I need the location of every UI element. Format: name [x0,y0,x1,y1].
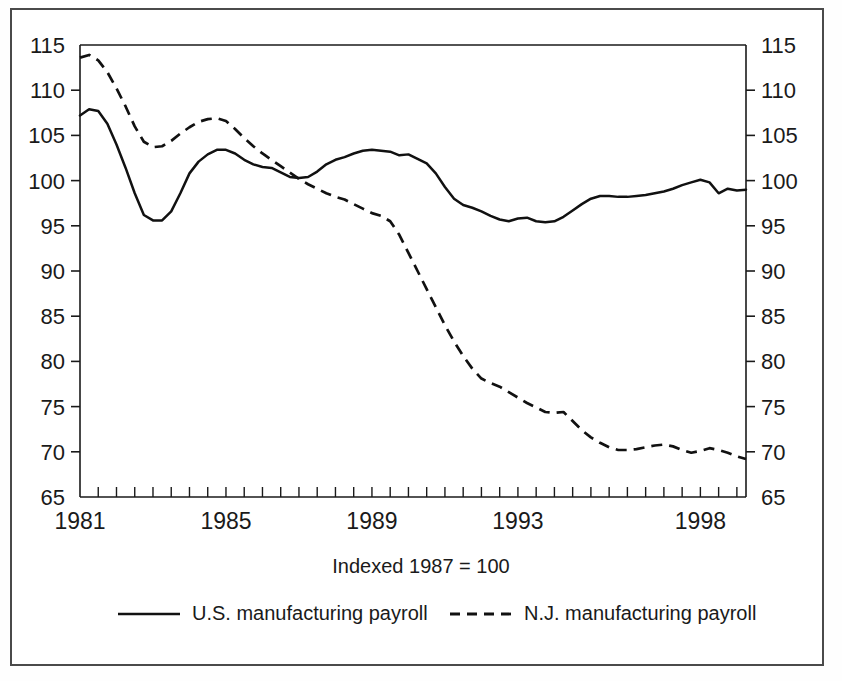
chart-caption: Indexed 1987 = 100 [332,555,509,577]
x-axis-label: 1989 [346,508,397,534]
y-axis-label-left: 115 [30,33,65,58]
figure-container: 1151151101101051051001009595909085858080… [0,0,842,681]
y-axis-label-right: 90 [761,259,785,284]
y-axis-label-left: 70 [41,440,65,465]
legend-label-us: U.S. manufacturing payroll [192,602,428,624]
y-axis-label-right: 100 [761,169,798,194]
y-axis-label-right: 115 [761,33,796,58]
y-axis-label-right: 80 [761,349,785,374]
y-axis-label-left: 105 [28,123,65,148]
y-axis-label-right: 85 [761,304,785,329]
line-chart: 1151151101101051051001009595909085858080… [0,0,842,681]
y-axis-label-left: 80 [41,349,65,374]
x-axis-label: 1998 [675,508,726,534]
y-axis-label-right: 110 [761,78,796,103]
y-axis-label-left: 85 [41,304,65,329]
y-axis-label-left: 90 [41,259,65,284]
y-axis-label-left: 110 [30,78,65,103]
y-axis-label-right: 65 [761,485,785,510]
series-line-nj [80,55,746,459]
y-axis-label-left: 75 [41,395,65,420]
y-axis-label-right: 75 [761,395,785,420]
y-axis-label-left: 95 [41,214,65,239]
x-axis-label: 1985 [200,508,251,534]
legend-label-nj: N.J. manufacturing payroll [524,602,756,624]
y-axis-label-left: 100 [28,169,65,194]
y-axis-label-left: 65 [41,485,65,510]
y-axis-label-right: 95 [761,214,785,239]
series-line-us [80,109,746,222]
x-axis-label: 1981 [54,508,105,534]
x-axis-label: 1993 [492,508,543,534]
y-axis-label-right: 105 [761,123,798,148]
y-axis-label-right: 70 [761,440,785,465]
